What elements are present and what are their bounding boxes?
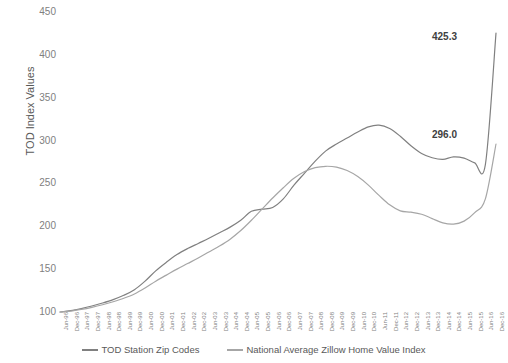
y-axis-tick-label: 450 — [22, 7, 56, 17]
legend-line-swatch — [82, 349, 98, 351]
legend-item-tod[interactable]: TOD Station Zip Codes — [82, 344, 199, 355]
x-axis-tick-label: Dec-15 — [478, 312, 484, 331]
x-axis-tick-label: Dec-99 — [137, 312, 143, 331]
x-axis-tick-label: Dec-14 — [456, 312, 462, 331]
x-axis-tick-label: Jun-01 — [169, 312, 175, 330]
legend-line-swatch — [227, 349, 243, 351]
x-axis-tick-label: Jun-96 — [63, 312, 69, 330]
x-axis-tick-label: Jun-04 — [233, 312, 239, 330]
x-axis-tick-label: Dec-08 — [329, 312, 335, 331]
x-axis-tick-label: Dec-04 — [244, 312, 250, 331]
y-axis-tick-label: 350 — [22, 93, 56, 103]
x-axis-tick-label: Dec-11 — [393, 312, 399, 331]
series-line-tod — [60, 33, 496, 312]
legend-label: National Average Zillow Home Value Index — [246, 344, 425, 355]
x-axis-tick-label: Dec-06 — [286, 312, 292, 331]
x-axis-tick-label: Dec-02 — [201, 312, 207, 331]
y-axis-tick-label: 150 — [22, 264, 56, 274]
x-axis-tick-label: Dec-10 — [371, 312, 377, 331]
line-chart: TOD Index Values 10015020025030035040045… — [0, 0, 508, 363]
x-axis-tick-label: Dec-96 — [74, 312, 80, 331]
x-axis-tick-label: Jun-03 — [212, 312, 218, 330]
y-axis-tick-label: 300 — [22, 136, 56, 146]
series-lines — [60, 12, 496, 312]
x-axis-tick-label: Jun-16 — [488, 312, 494, 330]
x-axis-tick-label: Jun-07 — [297, 312, 303, 330]
x-axis-tick-label: Dec-12 — [414, 312, 420, 331]
y-axis-tick-label: 200 — [22, 221, 56, 231]
x-axis-tick-labels: Jun-96Dec-96Jun-97Dec-97Jun-98Dec-98Jun-… — [60, 312, 496, 342]
x-axis-tick-label: Jun-11 — [382, 312, 388, 330]
x-axis-tick-label: Dec-98 — [116, 312, 122, 331]
x-axis-tick-label: Dec-16 — [499, 312, 505, 331]
y-axis-tick-label: 400 — [22, 50, 56, 60]
x-axis-tick-label: Dec-09 — [350, 312, 356, 331]
x-axis-tick-label: Jun-05 — [254, 312, 260, 330]
x-axis-tick-label: Jun-12 — [403, 312, 409, 330]
x-axis-tick-label: Dec-05 — [265, 312, 271, 331]
x-axis-tick-label: Jun-98 — [106, 312, 112, 330]
x-axis-tick-label: Jun-10 — [361, 312, 367, 330]
x-axis-tick-label: Jun-99 — [127, 312, 133, 330]
x-axis-tick-label: Dec-13 — [435, 312, 441, 331]
chart-legend: TOD Station Zip CodesNational Average Zi… — [0, 344, 508, 355]
legend-label: TOD Station Zip Codes — [101, 344, 199, 355]
data-label-tod-endpoint: 425.3 — [432, 31, 457, 42]
x-axis-tick-label: Jun-14 — [446, 312, 452, 330]
y-axis-tick-label: 100 — [22, 307, 56, 317]
series-line-national — [60, 144, 496, 312]
x-axis-tick-label: Dec-00 — [159, 312, 165, 331]
legend-item-national[interactable]: National Average Zillow Home Value Index — [227, 344, 425, 355]
plot-area — [60, 12, 496, 312]
y-axis-tick-labels: 100150200250300350400450 — [22, 0, 56, 363]
x-axis-tick-label: Dec-07 — [308, 312, 314, 331]
x-axis-tick-label: Jun-13 — [425, 312, 431, 330]
x-axis-tick-label: Jun-02 — [191, 312, 197, 330]
x-axis-tick-label: Jun-09 — [339, 312, 345, 330]
data-label-national-endpoint: 296.0 — [432, 129, 457, 140]
x-axis-tick-label: Dec-01 — [180, 312, 186, 331]
x-axis-tick-label: Jun-08 — [318, 312, 324, 330]
x-axis-tick-label: Dec-97 — [95, 312, 101, 331]
x-axis-tick-label: Jun-15 — [467, 312, 473, 330]
x-axis-tick-label: Jun-97 — [84, 312, 90, 330]
y-axis-tick-label: 250 — [22, 178, 56, 188]
x-axis-tick-label: Dec-03 — [223, 312, 229, 331]
x-axis-tick-label: Jun-00 — [148, 312, 154, 330]
x-axis-tick-label: Jun-06 — [276, 312, 282, 330]
